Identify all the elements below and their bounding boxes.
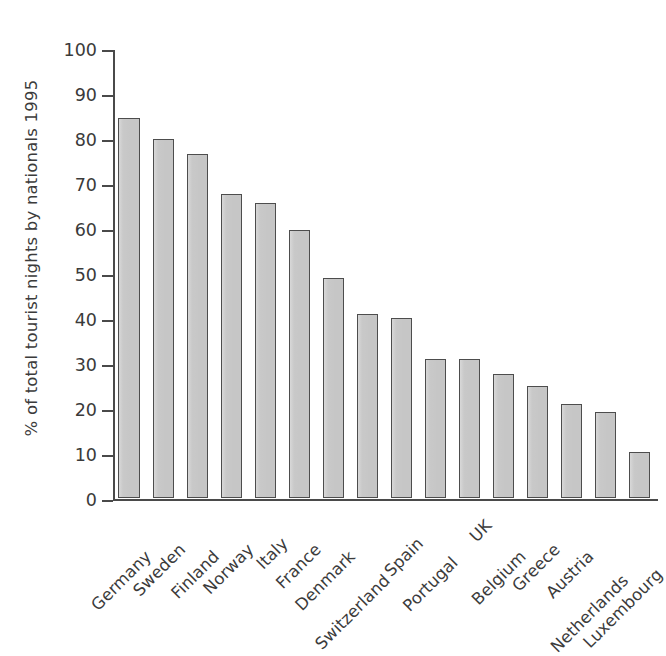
y-tick-label: 20 [75, 400, 97, 420]
bar [459, 359, 480, 499]
x-axis-label: UK [466, 516, 496, 546]
bar [221, 194, 242, 498]
bar [357, 314, 378, 499]
y-tick-label: 90 [75, 85, 97, 105]
plot-area: 1009080706050403020100 [113, 50, 658, 500]
x-axis-label: Spain [381, 534, 427, 580]
y-tick-mark [102, 410, 113, 412]
y-tick-label: 0 [86, 490, 97, 510]
y-tick-mark [102, 50, 113, 52]
bar [153, 139, 174, 498]
bar [289, 230, 310, 498]
bar [323, 278, 344, 499]
y-tick-mark [102, 500, 113, 502]
y-tick-mark [102, 95, 113, 97]
y-tick-label: 70 [75, 175, 97, 195]
bar [561, 404, 582, 498]
bar [391, 318, 412, 498]
bar [187, 154, 208, 498]
y-axis-title: % of total tourist nights by nationals 1… [14, 8, 48, 508]
bar [629, 452, 650, 498]
bar [425, 359, 446, 499]
bar [118, 118, 139, 498]
y-tick-label: 60 [75, 220, 97, 240]
y-tick-mark [102, 185, 113, 187]
bar [527, 386, 548, 499]
bar [595, 412, 616, 498]
y-tick-label: 80 [75, 130, 97, 150]
y-tick-label: 100 [64, 40, 97, 60]
y-tick-mark [102, 455, 113, 457]
y-tick-mark [102, 230, 113, 232]
x-axis-labels: GermanySwedenFinlandNorwayItalyFranceDen… [113, 500, 658, 647]
bar [255, 203, 276, 498]
bar [493, 374, 514, 498]
y-tick-mark [102, 275, 113, 277]
y-tick-label: 50 [75, 265, 97, 285]
y-tick-mark [102, 320, 113, 322]
y-tick-label: 40 [75, 310, 97, 330]
y-tick-mark [102, 140, 113, 142]
y-tick-label: 30 [75, 355, 97, 375]
y-tick-label: 10 [75, 445, 97, 465]
y-tick-mark [102, 365, 113, 367]
y-axis-line [113, 50, 115, 501]
